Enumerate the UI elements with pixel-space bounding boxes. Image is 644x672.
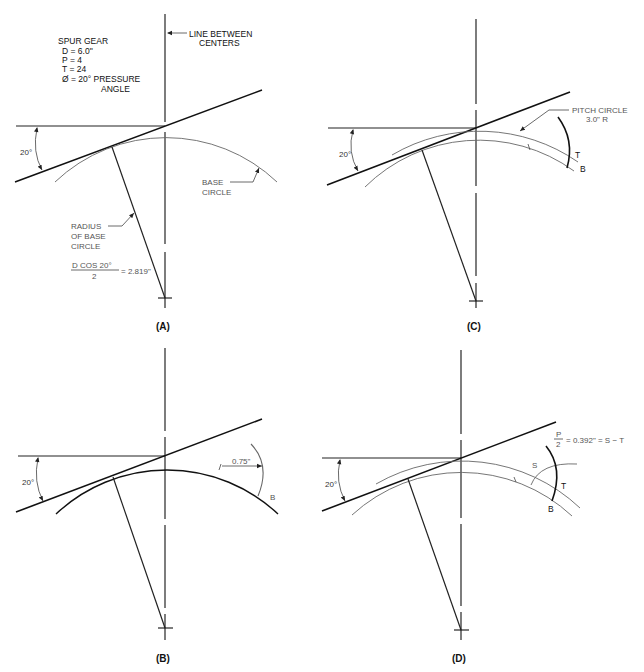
angle-label: 20° — [20, 148, 32, 157]
pitch-circle-label-1: PITCH CIRCLE — [572, 106, 628, 115]
angle-arc — [35, 128, 42, 170]
angle-arc — [338, 460, 345, 501]
point-t-label: T — [561, 481, 566, 491]
radius-line — [113, 477, 165, 628]
panel-caption: (D) — [452, 653, 466, 664]
point-t-label: T — [575, 150, 580, 160]
pitch-circle-leader — [520, 110, 569, 131]
base-circle-label-1: BASE — [202, 178, 223, 187]
formula-numerator: D COS 20° — [72, 261, 112, 270]
panel-caption: (A) — [156, 321, 170, 332]
spec-pressure-angle-cont: ANGLE — [101, 84, 130, 94]
formula-numerator: P — [556, 430, 561, 439]
pressure-line — [15, 90, 262, 182]
angle-arc — [36, 458, 43, 501]
point-b-label: B — [548, 504, 554, 514]
gear-construction-figure: SPUR GEAR D = 6.0" P = 4 T = 24 Ø = 20° … — [0, 0, 644, 672]
pressure-line — [16, 419, 262, 512]
construction-arc — [251, 444, 263, 496]
panel-caption: (C) — [467, 321, 481, 332]
panel-b: 20° 0.75" B (B) — [16, 348, 278, 664]
point-b-label: B — [580, 164, 586, 174]
spec-title: SPUR GEAR — [58, 36, 108, 46]
base-circle-arc — [365, 140, 574, 187]
radius-label-3: CIRCLE — [71, 242, 100, 251]
formula-denominator: 2 — [92, 272, 97, 281]
radius-line — [422, 150, 476, 301]
angle-label: 20° — [325, 480, 337, 489]
pitch-circle-label-2: 3.0" R — [586, 115, 608, 124]
point-s-label: S — [532, 461, 537, 470]
pitch-circle-arc — [392, 131, 578, 162]
radius-label-2: OF BASE — [71, 232, 106, 241]
angle-arc — [351, 130, 358, 171]
pressure-line — [327, 92, 570, 185]
base-circle-arc — [55, 138, 277, 182]
s-construction-arc — [531, 464, 577, 485]
tick-mark — [219, 464, 221, 470]
radius-line — [408, 479, 461, 630]
panel-a: SPUR GEAR D = 6.0" P = 4 T = 24 Ø = 20° … — [15, 14, 277, 332]
dimension-label: 0.75" — [232, 457, 251, 466]
base-circle-label-2: CIRCLE — [202, 188, 231, 197]
pressure-line — [322, 422, 556, 511]
angle-label: 20° — [339, 150, 351, 159]
panel-caption: (B) — [156, 653, 170, 664]
radius-leader — [108, 213, 134, 226]
formula-result: = 2.819" — [121, 267, 151, 276]
spec-pressure-angle: Ø = 20° PRESSURE — [62, 74, 141, 84]
radius-label-1: RADIUS — [71, 222, 101, 231]
panel-c: 20° T B PITCH CIRCLE 3.0" R (C) — [327, 19, 628, 332]
angle-label: 20° — [22, 478, 34, 487]
panel-d: 20° S T B P 2 = 0.392" = S − T (D) — [322, 350, 624, 664]
tick-mark — [528, 144, 530, 150]
spec-teeth: T = 24 — [62, 64, 86, 74]
formula-result: = 0.392" = S − T — [566, 436, 624, 445]
point-b-label: B — [270, 493, 275, 502]
tb-construction-arc — [546, 446, 557, 501]
base-circle-arc — [56, 470, 278, 514]
construction-arc — [558, 117, 570, 168]
formula-denominator: 2 — [556, 440, 561, 449]
pitch-circle-arc — [376, 461, 580, 508]
line-between-centers-label-2: CENTERS — [199, 38, 240, 48]
base-circle-leader — [230, 168, 259, 182]
